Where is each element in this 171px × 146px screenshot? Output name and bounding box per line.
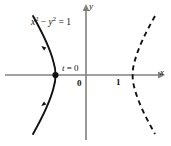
t-zero-point-marker [52,72,58,78]
y-axis [83,4,90,140]
equation-label: x2 − y2 = 1 [31,18,71,28]
origin-label: 0 [77,79,82,88]
plot-canvas [0,0,171,146]
direction-arrow-lower [41,102,46,107]
direction-arrow-upper [41,46,46,51]
x-axis [5,72,165,79]
y-axis-label: y [89,2,93,11]
x-axis-label: x [160,68,164,77]
hyperbola-figure: x2 − y2 = 1 t = 0 0 1 x y [0,0,171,146]
t-zero-label: t = 0 [62,64,79,73]
x-tick-one-label: 1 [116,78,121,87]
